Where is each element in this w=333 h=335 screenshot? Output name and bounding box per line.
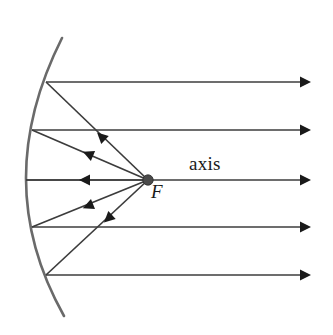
axis-label: axis xyxy=(189,153,221,175)
incoming-parallel-rays xyxy=(26,77,311,281)
incoming-ray-2-arrowhead xyxy=(300,125,311,136)
incoming-ray-4-arrowhead xyxy=(300,222,311,233)
reflected-ray-2-arrowhead xyxy=(81,147,95,161)
ray-diagram-canvas xyxy=(0,0,333,335)
ray-diagram-figure: axis F xyxy=(0,0,333,335)
focal-point-label: F xyxy=(151,181,163,203)
reflected-ray-1 xyxy=(46,82,148,180)
reflected-rays xyxy=(26,82,148,275)
incoming-ray-5-arrowhead xyxy=(300,270,311,281)
incoming-ray-1-arrowhead xyxy=(300,77,311,88)
reflected-ray-3-arrowhead xyxy=(79,175,90,186)
incoming-ray-3-arrowhead xyxy=(300,175,311,186)
